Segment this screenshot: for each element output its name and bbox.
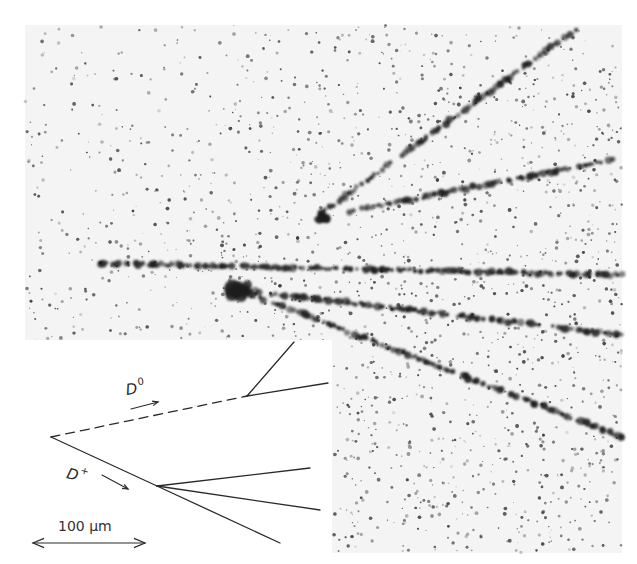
schematic-inset <box>0 0 637 564</box>
inset-background <box>0 340 332 564</box>
emulsion-figure: D0 D+ 100 μm <box>0 0 637 564</box>
dplus-label: D+ <box>65 465 89 487</box>
d0-label: D0 <box>125 379 146 398</box>
scale-bar-label: 100 μm <box>58 519 112 533</box>
